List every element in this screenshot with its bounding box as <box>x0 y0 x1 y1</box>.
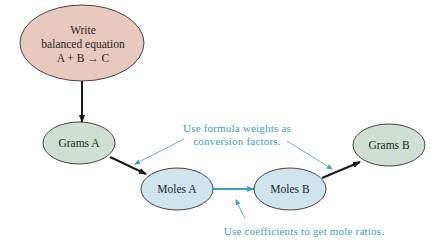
arrow-grams-a-to-moles-a <box>110 157 146 174</box>
pointer-coefficients <box>236 200 245 219</box>
node-grams-b: Grams B <box>353 124 425 166</box>
grams-a-label: Grams A <box>58 137 100 149</box>
arrow-moles-b-to-grams-b <box>322 162 360 178</box>
moles-a-label: Moles A <box>157 183 197 195</box>
grams-b-label: Grams B <box>368 139 410 151</box>
stoichiometry-diagram: Write balanced equation A + B → C Grams … <box>0 0 443 243</box>
node-equation: Write balanced equation A + B → C <box>20 5 144 81</box>
equation-line-1: Write <box>70 24 96 36</box>
node-moles-b: Moles B <box>254 168 326 210</box>
node-moles-a: Moles A <box>141 168 213 210</box>
node-grams-a: Grams A <box>43 122 115 164</box>
note-formula-weights-line-1: Use formula weights as <box>183 122 291 134</box>
note-formula-weights-line-2: conversion factors. <box>193 135 281 147</box>
note-formula-weights: Use formula weights as conversion factor… <box>183 122 291 147</box>
equation-line-2: balanced equation <box>41 38 125 51</box>
equation-line-3: A + B → C <box>57 52 110 64</box>
pointer-formula-weights-right <box>287 141 332 169</box>
moles-b-label: Moles B <box>270 183 310 195</box>
pointer-formula-weights-left <box>135 139 184 164</box>
note-coefficients: Use coefficients to get mole ratios. <box>224 225 384 237</box>
